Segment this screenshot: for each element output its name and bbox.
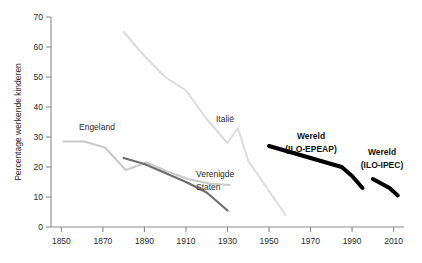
x-tick-label: 1970 <box>301 236 320 246</box>
x-tick-label: 1850 <box>52 236 71 246</box>
series-label-wereld-ipec-line2: (ILO-IPEC) <box>361 160 404 170</box>
x-tick-label: 1950 <box>260 236 279 246</box>
series-label-verenigde-staten-line2: Staten <box>196 182 221 192</box>
y-tick-label: 50 <box>34 72 44 82</box>
series-label-wereld-ipec-line1: Wereld <box>368 147 396 157</box>
y-tick-label: 10 <box>34 192 44 202</box>
chart-container: Percentage werkende kinderen 01020304050… <box>0 0 422 263</box>
x-tick-label: 1890 <box>135 236 154 246</box>
x-tick-label: 1910 <box>177 236 196 246</box>
y-tick-label: 70 <box>34 12 44 22</box>
child-labour-line-chart: Percentage werkende kinderen 01020304050… <box>0 0 422 263</box>
x-tick-label: 1990 <box>343 236 362 246</box>
series-line-wereld-ilo-ipec <box>373 179 398 196</box>
x-axis-ticks: 185018701890191019301950197019902010 <box>52 227 403 246</box>
y-tick-label: 20 <box>34 162 44 172</box>
series-label-wereld-epeap-line2: (ILO-EPEAP) <box>285 144 337 154</box>
y-axis-title: Percentage werkende kinderen <box>13 63 23 181</box>
series-label-engeland: Engeland <box>79 122 115 132</box>
y-tick-label: 0 <box>38 222 43 232</box>
series-label-italie: Italië <box>216 114 234 124</box>
y-tick-label: 30 <box>34 132 44 142</box>
series-label-verenigde-staten-line1: Verenigde <box>196 169 235 179</box>
x-tick-label: 1870 <box>93 236 112 246</box>
y-tick-label: 40 <box>34 102 44 112</box>
y-axis-ticks: 010203040506070 <box>34 12 51 232</box>
series-label-wereld-epeap-line1: Wereld <box>297 131 325 141</box>
y-tick-label: 60 <box>34 42 44 52</box>
x-tick-label: 2010 <box>384 236 403 246</box>
x-tick-label: 1930 <box>218 236 237 246</box>
